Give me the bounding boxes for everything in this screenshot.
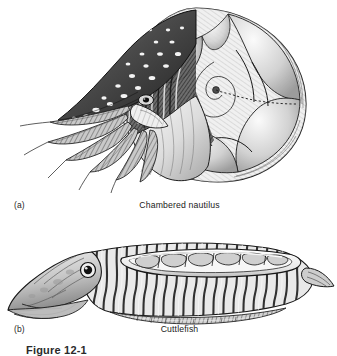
- caption-panel-b: (b) Cuttlefish: [0, 321, 337, 337]
- cuttlefish-head: [8, 252, 101, 318]
- caption-panel-a: (a) Chambered nautilus: [0, 197, 337, 213]
- panel-title-b: Cuttlefish: [0, 321, 337, 337]
- nautilus-eye: [139, 95, 154, 105]
- illustration-cuttlefish: [0, 228, 337, 328]
- panel-title-a: Chambered nautilus: [0, 197, 337, 213]
- illustration-chambered-nautilus: [0, 0, 337, 195]
- figure-caption: Figure 12-1: [26, 345, 87, 356]
- nautilus-drawing: [0, 0, 337, 195]
- cuttlefish-eye: [81, 263, 96, 278]
- cuttlefish-cuttlebone: [121, 249, 301, 277]
- cuttlefish-drawing: [0, 228, 337, 328]
